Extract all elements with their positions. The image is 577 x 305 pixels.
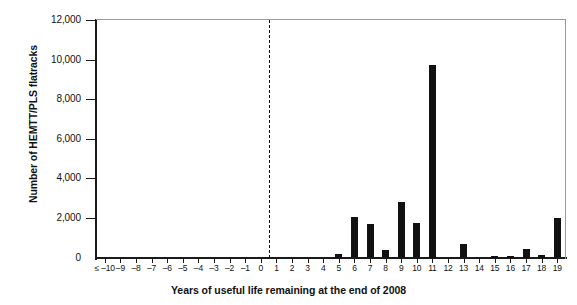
y-axis-tick — [86, 99, 96, 100]
y-axis-tick-label: 4,000 — [56, 172, 81, 183]
bar — [351, 217, 358, 258]
y-axis-title: Number of HEMTT/PLS flatracks — [27, 9, 39, 239]
bar — [460, 244, 467, 258]
bar — [554, 218, 561, 258]
x-axis-title: Years of useful life remaining at the en… — [0, 284, 577, 296]
bar — [413, 223, 420, 258]
bar — [507, 256, 514, 258]
bar — [538, 255, 545, 258]
y-axis-tick — [86, 20, 96, 21]
y-axis-tick — [86, 218, 96, 219]
y-axis-tick-label: 8,000 — [56, 93, 81, 104]
y-axis-tick-label: 6,000 — [56, 133, 81, 144]
y-axis-tick-label: 12,000 — [51, 14, 81, 25]
bar — [335, 254, 342, 258]
zero-divider-line — [269, 20, 270, 258]
x-axis-tick-label: 19 — [542, 263, 572, 273]
bar — [398, 202, 405, 257]
y-axis-tick — [86, 178, 96, 179]
bar — [429, 65, 436, 258]
plot-frame-top — [96, 19, 566, 20]
chart-figure: Number of HEMTT/PLS flatracks 02,0004,00… — [0, 0, 577, 305]
y-axis-tick-label: 10,000 — [51, 54, 81, 65]
y-axis-tick — [86, 139, 96, 140]
y-axis-tick-label: 0 — [76, 252, 81, 263]
bar — [491, 256, 498, 258]
bar — [523, 249, 530, 258]
plot-frame-right — [565, 19, 566, 259]
y-axis-tick-label: 2,000 — [56, 212, 81, 223]
bar — [367, 224, 374, 258]
bar — [382, 250, 389, 258]
y-axis-tick — [86, 60, 96, 61]
